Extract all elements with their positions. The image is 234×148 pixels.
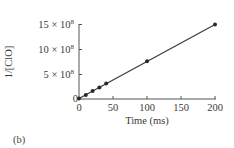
x-tick-label-50: 50 <box>108 102 119 113</box>
x-tick-label-0: 0 <box>76 102 81 113</box>
x-tick-label-200: 200 <box>207 102 223 113</box>
data-series <box>77 23 217 101</box>
data-point <box>213 23 217 27</box>
x-axis-label: Time (ms) <box>125 115 169 127</box>
x-tick-label-150: 150 <box>173 102 189 113</box>
data-point <box>97 86 101 90</box>
data-point <box>77 97 81 101</box>
data-point <box>104 82 108 86</box>
y-tick-label-10e8: 10 × 108 <box>38 43 74 55</box>
data-point <box>145 59 149 63</box>
y-tick-label-5e8: 5 × 108 <box>44 68 75 80</box>
data-point <box>91 89 95 93</box>
y-tick-label-15e8: 15 × 108 <box>38 18 74 30</box>
chart-plot: 15 × 108 10 × 108 5 × 108 0 0 50 100 150… <box>0 0 234 148</box>
panel-label: (b) <box>13 134 25 145</box>
x-tick-label-100: 100 <box>139 102 155 113</box>
y-axis-label: 1/[ClO] <box>3 46 14 79</box>
data-point <box>84 93 88 97</box>
